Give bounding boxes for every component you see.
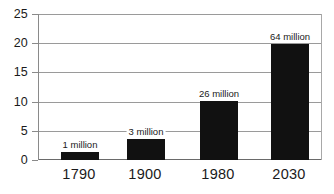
y-axis-tick-mark	[32, 160, 38, 161]
x-axis: 1790 1900 1980 2030	[38, 164, 322, 188]
bar-value-label-1790: 1 million	[61, 139, 100, 150]
x-axis-tick-label-1900: 1900	[128, 166, 161, 182]
bar-value-label-2030: 64 million	[268, 31, 312, 42]
y-axis: 25 20 15 10 5 0	[0, 0, 32, 194]
bar-1980	[200, 101, 238, 160]
y-axis-tick-label: 0	[21, 153, 28, 167]
y-axis-tick-label: 25	[14, 7, 28, 21]
x-axis-tick-label-1980: 1980	[201, 166, 234, 182]
y-axis-tick-label: 10	[14, 95, 28, 109]
y-axis-tick-label: 20	[14, 36, 28, 50]
y-axis-tick-label: 5	[21, 124, 28, 138]
bar-1900	[127, 139, 165, 160]
x-axis-tick-label-2030: 2030	[272, 166, 305, 182]
bar-value-label-1980: 26 million	[197, 88, 241, 99]
bar-2030	[271, 44, 309, 160]
y-axis-tick-label: 15	[14, 65, 28, 79]
bar-chart: 25 20 15 10 5 0 1 million 3 million 26 m…	[0, 0, 334, 194]
bar-1790	[61, 152, 99, 160]
bar-value-label-1900: 3 million	[127, 126, 166, 137]
gridline-25	[39, 14, 321, 15]
x-axis-tick-label-1790: 1790	[62, 166, 95, 182]
plot-area: 1 million 3 million 26 million 64 millio…	[38, 14, 322, 160]
